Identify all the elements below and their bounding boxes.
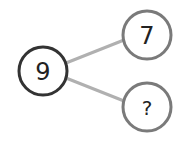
connector-whole-to-part-2 [66,78,124,101]
connector-whole-to-part-1 [66,40,124,63]
part-1-value: 7 [139,22,154,50]
whole-value: 9 [35,58,50,86]
whole-circle: 9 [19,47,67,95]
part-2-value-unknown: ? [142,96,153,120]
part-circle-2: ? [123,83,171,131]
part-circle-1: 7 [123,11,171,59]
number-bond-diagram: 9 7 ? [0,0,187,143]
